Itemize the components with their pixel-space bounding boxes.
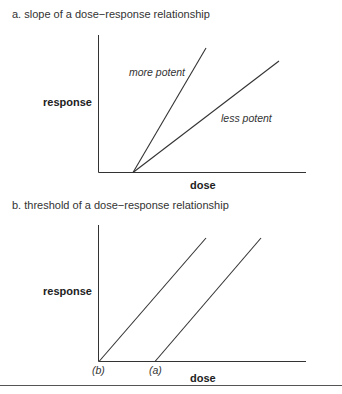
more-potent-label: more potent: [129, 66, 186, 78]
dose-response-diagram: more potent less potent response dose (b…: [0, 0, 342, 394]
panel-b-x-label: dose: [190, 372, 216, 384]
marker-a-label: (a): [149, 364, 162, 376]
marker-b-label: (b): [92, 364, 105, 376]
threshold-b-line: [99, 238, 206, 362]
panel-b-chart: (b) (a) response dose: [43, 225, 306, 384]
panel-a-chart: more potent less potent response dose: [43, 35, 306, 191]
panel-a-y-label: response: [43, 96, 92, 108]
panel-a-x-label: dose: [190, 179, 216, 191]
threshold-a-line: [155, 238, 261, 362]
panel-b-y-label: response: [43, 285, 92, 297]
less-potent-label: less potent: [221, 112, 273, 124]
